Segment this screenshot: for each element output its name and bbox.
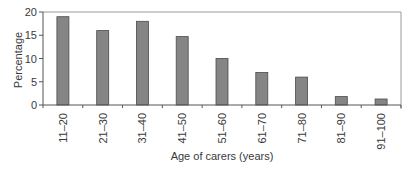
bar-91–100 [375, 99, 387, 105]
y-tick-label: 20 [25, 6, 37, 18]
y-tick-label: 0 [31, 99, 37, 111]
bar-31–40 [136, 21, 148, 105]
y-tick-label: 10 [25, 53, 37, 65]
x-axis-title: Age of carers (years) [171, 150, 274, 162]
bar-41–50 [176, 37, 188, 105]
bar-11–20 [57, 17, 69, 105]
y-axis: 05101520 [25, 6, 43, 111]
bar-21–30 [97, 31, 109, 105]
bars [57, 17, 387, 105]
x-tick-label: 91–100 [375, 113, 387, 150]
y-tick-label: 15 [25, 29, 37, 41]
x-tick-label: 21–30 [97, 113, 109, 144]
x-tick-label: 31–40 [136, 113, 148, 144]
bar-71–80 [296, 77, 308, 105]
x-tick-label: 11–20 [57, 113, 69, 143]
bar-chart: 05101520 11–2021–3031–4041–5051–6061–707… [0, 0, 413, 176]
y-axis-title: Percentage [12, 32, 24, 88]
bar-61–70 [256, 73, 268, 106]
y-tick-label: 5 [31, 76, 37, 88]
bar-51–60 [216, 59, 228, 106]
x-tick-label: 51–60 [216, 113, 228, 144]
bar-81–90 [335, 97, 347, 105]
x-tick-label: 61–70 [256, 113, 268, 144]
x-tick-label: 81–90 [335, 113, 347, 144]
x-tick-label: 41–50 [176, 113, 188, 144]
x-tick-label: 71–80 [296, 113, 308, 144]
x-axis: 11–2021–3031–4041–5051–6061–7071–8081–90… [43, 105, 401, 150]
